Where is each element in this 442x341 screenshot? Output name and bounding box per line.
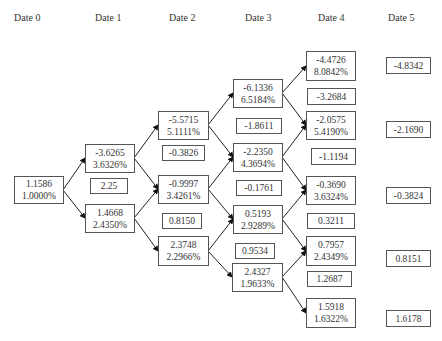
mid-value: -1.1194 bbox=[319, 151, 348, 163]
node-rate: 3.6326% bbox=[93, 159, 127, 171]
node-value: 0.5193 bbox=[245, 208, 271, 220]
node-rate: 3.6324% bbox=[314, 191, 348, 203]
node-value: -2.1690 bbox=[394, 124, 423, 136]
node-rate: 2.4350% bbox=[93, 219, 127, 231]
node-value: -0.3690 bbox=[316, 179, 345, 191]
mid-date4-3: 1.2687 bbox=[307, 271, 352, 287]
node-value: -4.8342 bbox=[394, 60, 423, 72]
node-date3-1: -2.2350 4.3694% bbox=[233, 143, 283, 172]
node-rate: 8.0842% bbox=[314, 66, 348, 78]
mid-date4-2: 0.3211 bbox=[307, 213, 355, 229]
node-rate: 5.4190% bbox=[314, 126, 348, 138]
node-rate: 2.2966% bbox=[166, 251, 200, 263]
node-date4-0: -4.4726 8.0842% bbox=[306, 51, 356, 81]
mid-date4-0: -3.2684 bbox=[307, 88, 356, 105]
node-rate: 1.6322% bbox=[314, 313, 348, 325]
mid-date2-1: 0.8150 bbox=[162, 213, 202, 229]
node-rate: 1.0000% bbox=[22, 190, 56, 202]
node-date4-1: -2.0575 5.4190% bbox=[306, 111, 356, 140]
node-date1-0: -3.6265 3.6326% bbox=[85, 144, 135, 173]
mid-date3-0: -1.8611 bbox=[236, 118, 282, 134]
node-value: 1.4668 bbox=[97, 207, 123, 219]
node-value: 1.1586 bbox=[26, 178, 52, 190]
node-value: -0.3824 bbox=[394, 190, 423, 202]
node-value: 0.8151 bbox=[395, 253, 421, 265]
mid-date3-2: 0.9534 bbox=[235, 243, 275, 259]
node-rate: 6.5184% bbox=[241, 94, 275, 106]
tree-edges bbox=[0, 0, 442, 341]
node-rate: 1.9633% bbox=[240, 278, 274, 290]
node-date3-2: 0.5193 2.9289% bbox=[233, 205, 283, 234]
node-date0-0: 1.1586 1.0000% bbox=[14, 176, 64, 204]
node-value: 1.6178 bbox=[395, 313, 421, 325]
node-date4-4: 1.5918 1.6322% bbox=[306, 298, 356, 328]
node-value: 1.5918 bbox=[318, 301, 344, 313]
node-date2-2: 2.3748 2.2966% bbox=[158, 236, 209, 266]
node-date3-3: 2.4327 1.9633% bbox=[232, 263, 283, 292]
mid-date4-1: -1.1194 bbox=[311, 148, 356, 165]
node-date2-1: -0.9997 3.4261% bbox=[158, 175, 209, 204]
node-date4-3: 0.7957 2.4349% bbox=[306, 236, 356, 266]
node-value: -3.6265 bbox=[95, 147, 124, 159]
mid-value: 0.8150 bbox=[169, 215, 195, 227]
node-rate: 5.1111% bbox=[167, 126, 200, 138]
node-value: -2.0575 bbox=[316, 114, 345, 126]
node-date3-0: -6.1336 6.5184% bbox=[233, 79, 283, 108]
mid-value: -1.8611 bbox=[245, 120, 274, 132]
node-value: 2.4327 bbox=[244, 266, 270, 278]
mid-value: 2.25 bbox=[101, 180, 118, 192]
node-date5-2: -0.3824 bbox=[386, 187, 431, 204]
node-value: -6.1336 bbox=[243, 82, 272, 94]
mid-value: 1.2687 bbox=[316, 273, 342, 285]
node-rate: 2.4349% bbox=[314, 251, 348, 263]
node-value: 0.7957 bbox=[318, 239, 344, 251]
mid-value: -0.3826 bbox=[169, 147, 198, 159]
node-value: -0.9997 bbox=[169, 178, 198, 190]
node-value: 2.3748 bbox=[170, 239, 196, 251]
node-rate: 2.9289% bbox=[241, 220, 275, 232]
node-date5-3: 0.8151 bbox=[386, 250, 431, 267]
node-rate: 3.4261% bbox=[166, 190, 200, 202]
node-date2-0: -5.5715 5.1111% bbox=[158, 111, 209, 140]
mid-value: 0.3211 bbox=[318, 215, 344, 227]
node-value: -2.2350 bbox=[243, 146, 272, 158]
node-rate: 4.3694% bbox=[241, 158, 275, 170]
mid-value: 0.9534 bbox=[242, 245, 268, 257]
node-value: -4.4726 bbox=[316, 54, 345, 66]
node-date5-1: -2.1690 bbox=[386, 121, 431, 138]
mid-date2-0: -0.3826 bbox=[162, 145, 205, 161]
mid-value: -0.1761 bbox=[244, 182, 273, 194]
mid-value: -3.2684 bbox=[317, 91, 346, 103]
node-date4-2: -0.3690 3.6324% bbox=[306, 176, 356, 205]
node-date5-0: -4.8342 bbox=[386, 57, 431, 74]
mid-date3-1: -0.1761 bbox=[236, 180, 282, 196]
mid-date1-0: 2.25 bbox=[90, 178, 128, 194]
node-value: -5.5715 bbox=[169, 114, 198, 126]
node-date1-1: 1.4668 2.4350% bbox=[85, 204, 135, 233]
node-date5-4: 1.6178 bbox=[386, 310, 431, 327]
